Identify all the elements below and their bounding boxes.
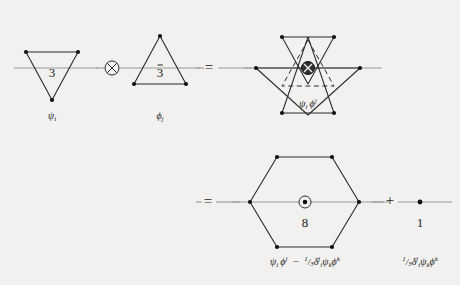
- octet-fraction-numerator: 1: [304, 255, 308, 263]
- octet-center-circle-dot-symbol: [299, 196, 311, 208]
- rep-label-1: 1: [417, 216, 424, 229]
- product-label-psi-phi: ψiϕj: [299, 98, 316, 111]
- singlet-fraction-numerator: 1: [402, 255, 406, 263]
- field-label-phi-j: ϕj: [156, 111, 163, 123]
- psi-index: i: [54, 115, 56, 123]
- rep-label-8: 8: [302, 216, 309, 229]
- singlet-point: [418, 200, 423, 205]
- plus-sign: +: [386, 193, 394, 208]
- rep-3bar-glyph: 3: [157, 66, 164, 79]
- star-center-tensor-symbol: [302, 62, 315, 75]
- equals-sign-row1: =: [205, 60, 213, 75]
- octet-caption-phi-index: j: [285, 255, 287, 263]
- star-triangle-up-mirror: [282, 37, 334, 84]
- singlet-fraction: 1/3: [402, 257, 412, 267]
- rep-label-3bar: 3: [157, 66, 164, 79]
- equals-sign-row2: =: [204, 194, 212, 209]
- octet-caption-minus: −: [292, 256, 299, 267]
- singlet-phi-k-index: k: [435, 255, 438, 263]
- singlet-caption: 1/3δjiψkϕk: [402, 256, 438, 269]
- octet-caption-psi-index: i: [276, 261, 278, 269]
- field-label-psi-i: ψi: [48, 111, 56, 123]
- octet-fraction: 1/3: [304, 257, 314, 267]
- octet-phi-k-index: k: [337, 255, 340, 263]
- weight-diagram-figure: [0, 0, 460, 285]
- octet-caption: ψiϕj−1/3δjiψkϕk: [270, 256, 340, 269]
- product-psi-index: i: [306, 103, 308, 111]
- phi-index: j: [162, 115, 164, 123]
- rep-label-3: 3: [49, 66, 56, 79]
- product-phi-index: j: [315, 97, 317, 105]
- tensor-product-symbol: [105, 61, 119, 75]
